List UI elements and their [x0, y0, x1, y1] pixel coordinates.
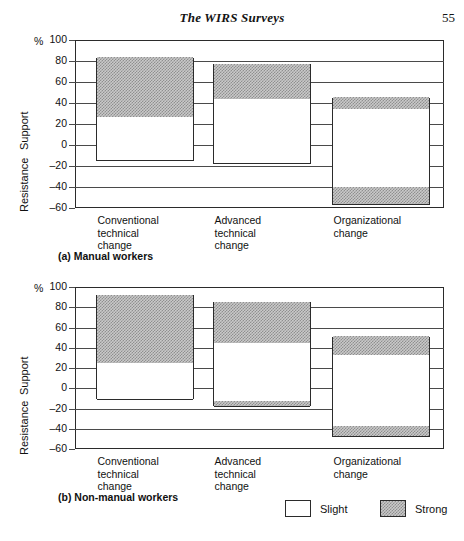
legend-label-strong: Strong: [415, 503, 447, 515]
legend-label-slight: Slight: [320, 503, 348, 515]
legend-item-slight: Slight: [285, 500, 348, 517]
legend-swatch-strong-icon: [380, 500, 406, 517]
legend: Slight Strong: [0, 0, 464, 541]
legend-swatch-slight-icon: [285, 500, 311, 517]
page: The WIRS Surveys 55 % Support Resistance…: [0, 0, 464, 541]
legend-item-strong: Strong: [380, 500, 447, 517]
